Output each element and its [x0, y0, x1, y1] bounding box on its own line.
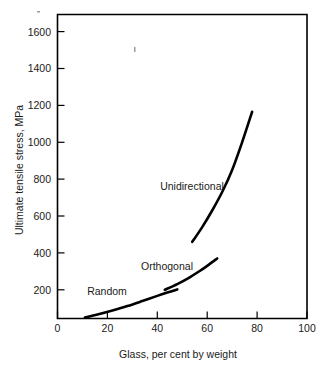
- series-curve-unidirectional: [192, 112, 252, 242]
- y-axis-title: Ultimate tensile stress, MPa: [13, 105, 25, 235]
- series-label-unidirectional: Unidirectional: [160, 180, 224, 192]
- chart-canvas: 1600 1400 1200 1000 800 600 400 200 0 20…: [0, 0, 328, 374]
- y-tick-label: 200: [33, 284, 51, 296]
- y-tick-label: 1400: [28, 62, 52, 74]
- y-tick-label: 1200: [28, 99, 52, 111]
- y-tick-label: 400: [33, 247, 51, 259]
- x-axis-title: Glass, per cent by weight: [119, 348, 237, 360]
- y-tick-label: 800: [33, 173, 51, 185]
- series-label-random: Random: [87, 285, 127, 297]
- plot-frame: [58, 15, 308, 319]
- series-label-orthogonal: Orthogonal: [141, 260, 193, 272]
- x-tick-label: 60: [201, 322, 213, 334]
- x-tick-label: 0: [55, 322, 61, 334]
- y-tick-label: 600: [33, 210, 51, 222]
- scan-artifact: [134, 47, 136, 52]
- x-tick-label: 100: [298, 322, 316, 334]
- y-axis-ticks: [58, 32, 65, 290]
- y-tick-label: 1000: [28, 136, 52, 148]
- y-tick-label: 1600: [28, 26, 52, 38]
- x-tick-label: 80: [251, 322, 263, 334]
- x-tick-label: 40: [151, 322, 163, 334]
- scan-artifact: [37, 11, 40, 13]
- x-tick-label: 20: [102, 322, 114, 334]
- chart-figure: 1600 1400 1200 1000 800 600 400 200 0 20…: [0, 0, 328, 374]
